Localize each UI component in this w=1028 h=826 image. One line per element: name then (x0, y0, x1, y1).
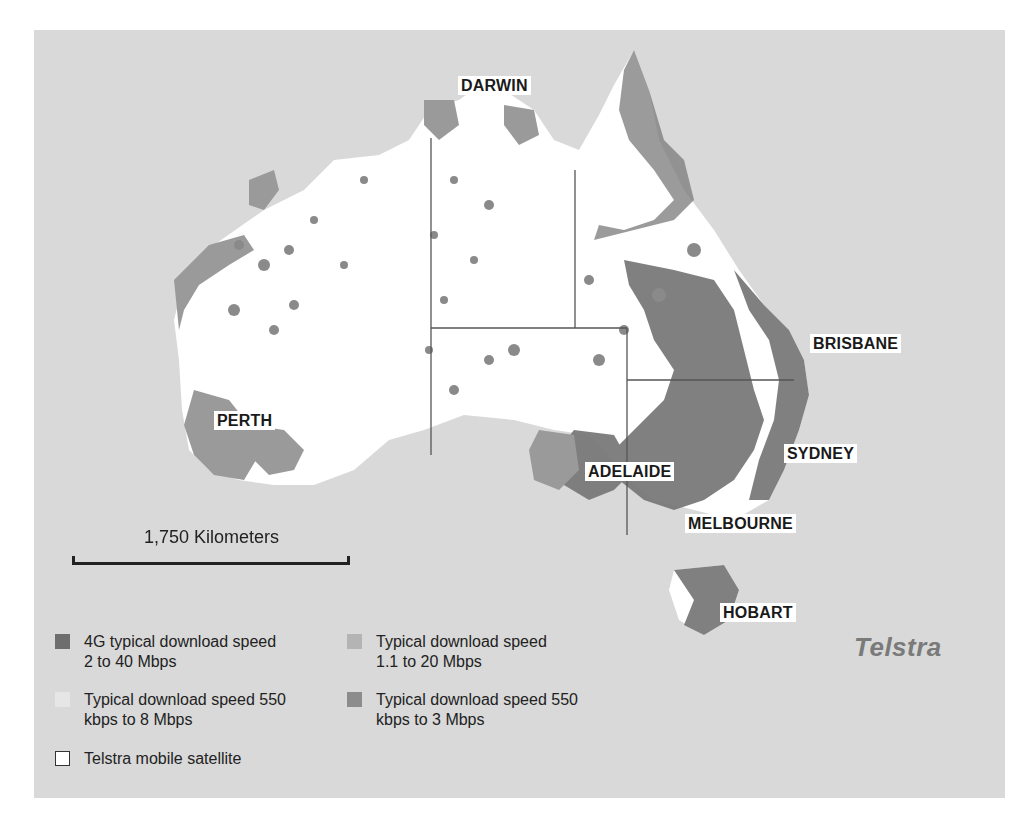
city-label-melbourne: MELBOURNE (685, 514, 796, 533)
legend-item-satellite: Telstra mobile satellite (55, 749, 241, 769)
scale-label: 1,750 Kilometers (144, 527, 279, 548)
legend-swatch-light-icon (347, 634, 362, 649)
legend-label: 4G typical download speed (84, 632, 276, 652)
legend-label: 1.1 to 20 Mbps (376, 652, 547, 672)
legend-label: 2 to 40 Mbps (84, 652, 276, 672)
legend-swatch-outline-icon (55, 751, 70, 766)
city-label-adelaide: ADELAIDE (585, 462, 674, 481)
telstra-logo: Telstra (854, 632, 942, 663)
legend-item-1-1-to-20: Typical download speed 1.1 to 20 Mbps (347, 632, 547, 672)
city-label-perth: PERTH (214, 411, 275, 430)
legend-label: Telstra mobile satellite (84, 749, 241, 769)
legend-swatch-pale-icon (55, 692, 70, 707)
legend-item-550k-to-8: Typical download speed 550 kbps to 8 Mbp… (55, 690, 286, 730)
city-label-sydney: SYDNEY (784, 444, 857, 463)
legend-swatch-dark-icon (55, 634, 70, 649)
legend-swatch-medium-icon (347, 692, 362, 707)
legend-label: Typical download speed 550 (376, 690, 578, 710)
legend-label: kbps to 8 Mbps (84, 710, 286, 730)
legend-label: kbps to 3 Mbps (376, 710, 578, 730)
city-label-brisbane: BRISBANE (810, 334, 901, 353)
legend-label: Typical download speed (376, 632, 547, 652)
australia-coverage-map (34, 30, 1005, 798)
city-label-darwin: DARWIN (458, 76, 531, 95)
scale-bar (72, 556, 350, 565)
map-panel: DARWIN BRISBANE PERTH SYDNEY ADELAIDE ME… (34, 30, 1005, 798)
legend-item-4g: 4G typical download speed 2 to 40 Mbps (55, 632, 276, 672)
legend-item-550k-to-3: Typical download speed 550 kbps to 3 Mbp… (347, 690, 578, 730)
city-label-hobart: HOBART (720, 603, 796, 622)
legend-label: Typical download speed 550 (84, 690, 286, 710)
